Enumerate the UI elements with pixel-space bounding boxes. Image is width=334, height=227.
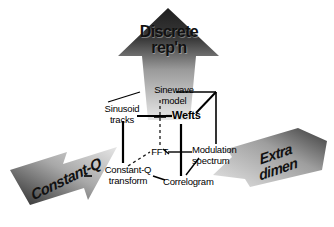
diagram-graphics xyxy=(0,0,334,227)
edge-sinusoid-to-sinewave xyxy=(108,92,140,102)
node-correlogram: Correlogram xyxy=(163,177,231,188)
node-wefts: Wefts xyxy=(172,110,220,121)
node-sinewave-model: Sinewave model xyxy=(141,85,207,106)
diagram-canvas: Discrete rep'n Constant-Q Extra dimen Si… xyxy=(0,0,334,227)
node-sinusoid-tracks: Sinusoid tracks xyxy=(91,104,153,125)
node-modulation-spectrum: Modulation spectrum xyxy=(192,145,262,166)
node-constant-q-transform: Constant-Q transform xyxy=(90,165,166,186)
node-fft: FFT xyxy=(138,147,168,158)
